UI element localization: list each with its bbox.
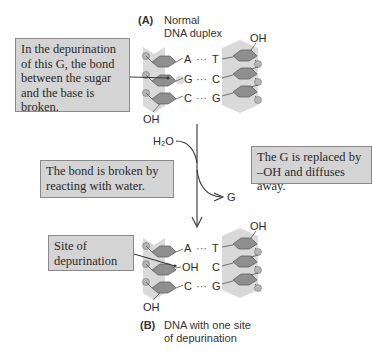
base-a-left-1: A [184,53,191,65]
base-a-right-1: T [212,53,219,65]
base-b-right-2: C [212,261,220,273]
panel-b-letter: (B) [140,319,155,332]
base-b-right-3: G [212,280,221,292]
base-a-right-2: C [212,73,220,85]
water-label: H₂O [153,135,174,147]
released-guanine-label: G [227,191,236,203]
panel-a-letter: (A) [138,14,153,27]
callout-g-replaced: The G is replaced by –OH and diffuses aw… [251,146,372,184]
hbond-dots: ··· [196,53,207,65]
base-a-right-3: G [212,92,221,104]
callout-site-of-depurination: Site of depurination [48,235,134,271]
g-release-arrow [197,170,221,197]
base-b-left-1: A [184,242,191,254]
hbond-dots: ··· [196,92,207,104]
callout-water-reaction: The bond is broken by reacting with wate… [40,160,174,198]
water-arrow [176,141,197,163]
panel-b-caption: DNA with one site of depurination [164,319,251,345]
left-strand-end-a: OH [143,113,160,125]
callout-depurination-bond: In the depurination of this G, the bond … [15,38,130,112]
right-strand-end-b: OH [250,220,267,232]
panel-a-caption: Normal DNA duplex [164,14,222,40]
base-b-left-3: C [184,280,192,292]
depurinated-site-oh: OH [182,261,199,273]
base-a-left-3: C [184,92,192,104]
base-b-right-1: T [212,242,219,254]
right-strand-end-a: OH [250,32,267,44]
base-a-left-2: G [184,73,193,85]
left-strand-end-b: OH [143,301,160,313]
hbond-dots: ··· [196,242,207,254]
hbond-dots: ··· [196,280,207,292]
hbond-dots: ··· [196,73,207,85]
